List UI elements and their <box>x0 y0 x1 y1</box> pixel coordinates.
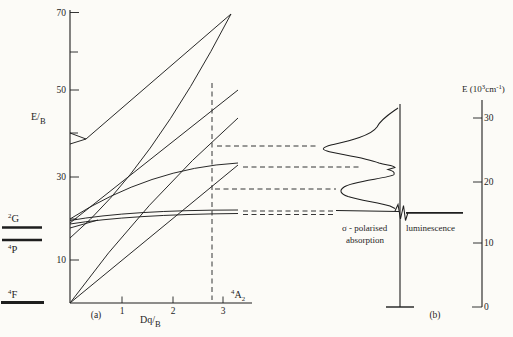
absorption-label-line1: σ - polarised <box>342 223 388 233</box>
panel-b-caption: (b) <box>429 310 440 321</box>
luminescence-label: luminescence <box>406 223 455 233</box>
absorption-zero-baseline <box>336 211 399 212</box>
absorption-spectrum-curve <box>323 108 398 209</box>
energy-tick-label-0: 0 <box>484 302 489 312</box>
panel-a-energy-diagram: 70 50 30 10 E/B 1 2 3 (a) Dq/B 4A2 2G 4P… <box>1 8 362 329</box>
ground-state-label-4A2: 4A2 <box>231 288 246 302</box>
y-tick-label-10: 10 <box>57 255 67 265</box>
curve-4T2 <box>70 165 238 303</box>
x-axis-ticks <box>122 297 223 304</box>
y-tick-label-50: 50 <box>57 85 67 95</box>
curve-upper-doublet-wedge-bottom <box>70 139 86 144</box>
curve-upper-doublet-a <box>86 14 231 139</box>
curve-2T1 <box>70 210 238 221</box>
curve-2G-cluster-strand <box>70 220 98 228</box>
energy-tick-label-30: 30 <box>484 113 494 123</box>
figure-canvas: 70 50 30 10 E/B 1 2 3 (a) Dq/B 4A2 2G 4P… <box>0 0 513 337</box>
y-tick-label-70: 70 <box>57 8 67 18</box>
energy-axis-ticks <box>472 118 482 307</box>
panel-b-spectra: σ - polarised absorption luminescence E … <box>323 83 504 322</box>
energy-tick-label-10: 10 <box>484 238 494 248</box>
term-label-4P: 4P <box>8 243 17 255</box>
x-axis-title: Dq/B <box>140 314 161 329</box>
curve-upper-doublet-b <box>70 90 238 223</box>
x-tick-label-3: 3 <box>221 306 226 316</box>
x-tick-label-1: 1 <box>120 306 125 316</box>
term-label-2G: 2G <box>8 212 19 224</box>
panel-a-caption: (a) <box>91 310 102 321</box>
x-tick-label-2: 2 <box>171 306 176 316</box>
figure-ruby-tanabe-sugano: 70 50 30 10 E/B 1 2 3 (a) Dq/B 4A2 2G 4P… <box>0 0 513 337</box>
term-label-4F: 4F <box>8 288 17 300</box>
y-tick-label-30: 30 <box>57 172 67 182</box>
curve-upper-doublet-wedge-top <box>70 133 86 139</box>
energy-axis-title: E (103cm-1) <box>462 83 505 95</box>
y-axis-title: E/B <box>31 111 46 126</box>
energy-tick-label-20: 20 <box>484 177 494 187</box>
absorption-label-line2: absorption <box>346 235 384 245</box>
